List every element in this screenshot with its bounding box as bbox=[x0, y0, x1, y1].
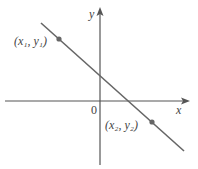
y-axis-label: y bbox=[89, 8, 94, 20]
point-2-label: (x₂, y₂) bbox=[105, 119, 138, 131]
coordinate-diagram bbox=[0, 0, 198, 169]
origin-label: 0 bbox=[91, 104, 97, 116]
point-1 bbox=[56, 36, 61, 41]
point-1-label: (x₁, y₁) bbox=[14, 35, 47, 47]
x-axis-label: x bbox=[176, 104, 181, 116]
point-2 bbox=[149, 119, 154, 124]
